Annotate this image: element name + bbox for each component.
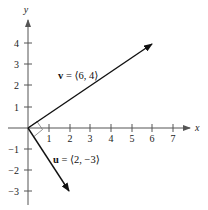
vector-v-arrow (28, 44, 152, 128)
y-tick-label: 1 (14, 102, 19, 113)
y-tick-label: 3 (14, 59, 19, 70)
y-tick-label: −1 (8, 144, 19, 155)
y-tick-label: 2 (14, 80, 19, 91)
y-axis-label: y (23, 4, 29, 15)
x-tick-label: 7 (171, 133, 176, 144)
x-tick-label: 2 (68, 133, 73, 144)
vector-v-label: v = ⟨6, 4⟩ (58, 70, 98, 81)
y-tick-label: 4 (14, 38, 19, 49)
vector-v-components: = ⟨6, 4⟩ (63, 70, 98, 81)
x-tick-label: 6 (150, 133, 155, 144)
vector-u-components: = ⟨2, −3⟩ (59, 154, 100, 165)
x-tick-label: 3 (88, 133, 93, 144)
x-tick-label: 5 (130, 133, 135, 144)
x-tick-label: 4 (109, 133, 114, 144)
y-tick-label: −2 (8, 165, 19, 176)
coordinate-plane-diagram: 1 2 3 4 5 6 7 x 4 3 2 1 −1 −2 −3 y v = ⟨… (0, 0, 208, 210)
y-tick-label: −3 (8, 186, 19, 197)
x-tick-label: 1 (47, 133, 52, 144)
x-axis-label: x (194, 122, 200, 133)
y-axis: 4 3 2 1 −1 −2 −3 y (8, 4, 32, 205)
vector-u-label: u = ⟨2, −3⟩ (53, 154, 100, 165)
